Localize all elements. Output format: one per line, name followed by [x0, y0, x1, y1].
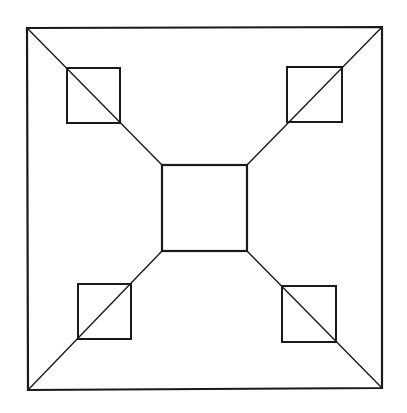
diagonal-line-bottom-right: [247, 251, 382, 388]
diagonal-line-top-left: [27, 28, 162, 165]
square-diagram: [0, 0, 407, 413]
diagram-canvas: [0, 0, 407, 413]
diagonal-line-top-right: [247, 27, 382, 165]
diagonal-lines: [27, 27, 382, 390]
corner-squares: [67, 67, 342, 342]
diagonal-line-bottom-left: [28, 251, 162, 390]
corner-square-top-right: [287, 67, 342, 122]
center-square: [162, 165, 247, 251]
